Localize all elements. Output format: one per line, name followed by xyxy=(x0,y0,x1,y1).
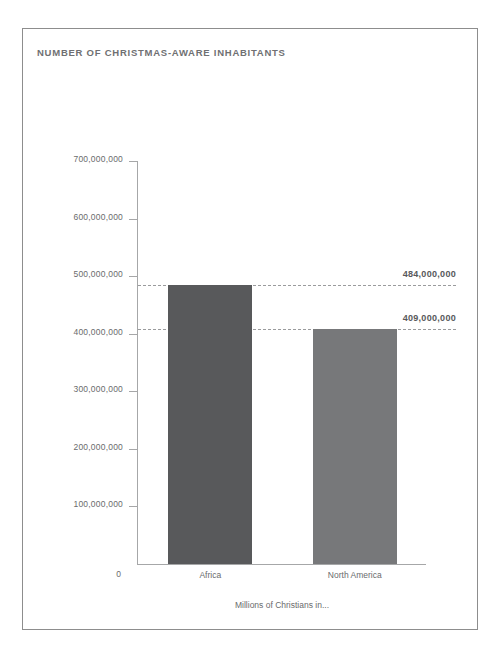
y-axis-tick-label: 600,000,000 xyxy=(74,212,123,222)
y-axis-tick: 300,000,000 xyxy=(129,391,138,392)
y-axis-tick-mark xyxy=(129,219,138,220)
y-axis-tick-label: 700,000,000 xyxy=(74,154,123,164)
plot-area: 100,000,000200,000,000300,000,000400,000… xyxy=(23,29,479,631)
y-axis-tick-label: 400,000,000 xyxy=(74,327,123,337)
x-axis-line xyxy=(137,564,426,565)
category-label: Africa xyxy=(199,570,221,580)
bar xyxy=(168,285,252,564)
y-axis-tick: 700,000,000 xyxy=(129,161,138,162)
bar xyxy=(313,329,397,564)
x-axis-caption: Millions of Christians in... xyxy=(235,600,329,610)
y-axis-tick: 100,000,000 xyxy=(129,506,138,507)
reference-line-label: 484,000,000 xyxy=(23,269,456,279)
y-axis-tick-mark xyxy=(129,334,138,335)
y-axis-tick-mark xyxy=(129,506,138,507)
figure-frame: NUMBER OF CHRISTMAS-AWARE INHABITANTS 10… xyxy=(22,28,478,630)
y-axis-zero-label: 0 xyxy=(116,569,121,579)
y-axis-tick-label: 200,000,000 xyxy=(74,442,123,452)
y-axis-tick: 400,000,000 xyxy=(129,334,138,335)
y-axis-tick-mark xyxy=(129,391,138,392)
bars-layer xyxy=(138,161,427,564)
reference-line-label: 409,000,000 xyxy=(23,313,456,323)
y-axis-tick: 200,000,000 xyxy=(129,449,138,450)
y-axis-tick-label: 100,000,000 xyxy=(74,499,123,509)
y-axis-tick-mark xyxy=(129,449,138,450)
y-axis-tick: 600,000,000 xyxy=(129,219,138,220)
y-axis-tick-mark xyxy=(129,161,138,162)
category-label: North America xyxy=(328,570,382,580)
y-axis-tick-label: 300,000,000 xyxy=(74,384,123,394)
